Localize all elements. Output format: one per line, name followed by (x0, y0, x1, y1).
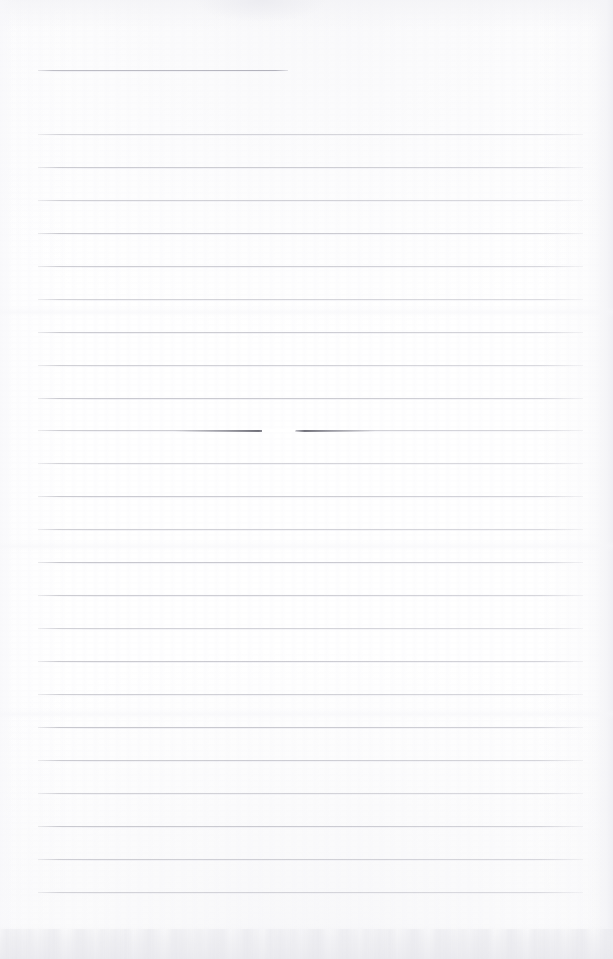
ruled-line (38, 365, 583, 366)
ruled-line (38, 299, 583, 300)
paper-wash (0, 307, 613, 317)
ruled-line (38, 134, 583, 135)
ruled-line (38, 628, 583, 629)
ruled-line (38, 233, 583, 234)
ruled-line (38, 595, 583, 596)
ruled-line (38, 793, 583, 794)
ruled-line (38, 266, 583, 267)
ruled-line (38, 332, 583, 333)
ruled-line (38, 496, 583, 497)
ruled-line (38, 562, 583, 563)
ruled-line (38, 892, 583, 893)
ruled-line (38, 398, 583, 399)
right-edge-shade (591, 0, 613, 959)
ruled-line (38, 760, 583, 761)
ruled-line (38, 167, 583, 168)
paper-wash (0, 541, 613, 551)
scanned-page (0, 0, 613, 959)
scan-grain-texture (0, 0, 613, 959)
top-scan-blotch (196, 0, 326, 22)
crease-smudge-left (175, 430, 270, 432)
ruled-line (38, 826, 583, 827)
crease-smudge-right (295, 430, 375, 432)
ruled-line (38, 859, 583, 860)
ruled-line (38, 694, 583, 695)
title-rule (38, 70, 288, 71)
left-edge-shade (0, 0, 14, 959)
ruled-line (38, 727, 583, 728)
paper-wash (0, 709, 613, 719)
bottom-scan-mottle (0, 929, 613, 959)
crease-gap (262, 429, 296, 432)
ruled-line (38, 463, 583, 464)
ruled-line (38, 529, 583, 530)
ruled-line (38, 200, 583, 201)
ruled-line (38, 661, 583, 662)
